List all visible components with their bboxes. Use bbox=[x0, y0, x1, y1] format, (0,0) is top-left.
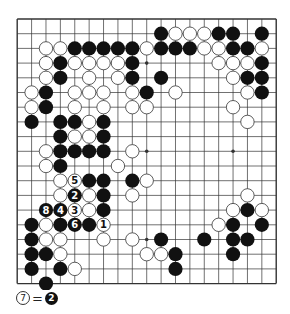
white-stone bbox=[140, 248, 153, 261]
black-stone bbox=[226, 27, 240, 41]
go-board-grid: 1234568 bbox=[0, 0, 290, 290]
move-number-label: 3 bbox=[71, 205, 78, 216]
black-stone bbox=[24, 218, 38, 232]
move-number-label: 8 bbox=[42, 205, 49, 216]
white-stone bbox=[39, 233, 52, 246]
move-number-label: 4 bbox=[57, 205, 64, 216]
white-stone bbox=[39, 71, 52, 84]
white-stone bbox=[226, 56, 239, 69]
star-point bbox=[231, 150, 235, 154]
black-stone bbox=[240, 71, 254, 85]
white-stone bbox=[97, 86, 110, 99]
white-stone bbox=[140, 101, 153, 114]
black-stone bbox=[24, 232, 38, 246]
white-stone bbox=[54, 233, 67, 246]
white-stone bbox=[111, 71, 124, 84]
move-number-label: 1 bbox=[100, 219, 107, 230]
black-stone bbox=[168, 41, 182, 55]
white-stone bbox=[169, 27, 182, 40]
move-number-label: 6 bbox=[71, 219, 78, 230]
black-stone bbox=[53, 130, 67, 144]
white-stone bbox=[82, 130, 95, 143]
black-stone bbox=[125, 71, 139, 85]
white-stone bbox=[82, 203, 95, 216]
white-stone bbox=[39, 159, 52, 172]
white-stone bbox=[126, 233, 139, 246]
star-point bbox=[145, 150, 149, 154]
caption-black-move-marker: 2 bbox=[45, 292, 58, 305]
white-stone bbox=[255, 203, 268, 216]
white-stone bbox=[25, 86, 38, 99]
move-caption: 7 = 2 bbox=[16, 290, 58, 306]
white-stone bbox=[82, 115, 95, 128]
black-stone bbox=[168, 247, 182, 261]
white-stone bbox=[97, 56, 110, 69]
star-point bbox=[145, 61, 149, 65]
black-stone bbox=[53, 262, 67, 276]
white-stone bbox=[54, 42, 67, 55]
white-stone bbox=[212, 56, 225, 69]
black-stone bbox=[82, 41, 96, 55]
black-stone bbox=[53, 144, 67, 158]
black-stone bbox=[255, 71, 269, 85]
black-stone bbox=[39, 100, 53, 114]
black-stone bbox=[125, 56, 139, 70]
white-stone bbox=[54, 189, 67, 202]
black-stone bbox=[68, 41, 82, 55]
black-stone bbox=[24, 262, 38, 276]
black-stone bbox=[68, 144, 82, 158]
black-stone bbox=[125, 41, 139, 55]
black-stone bbox=[96, 188, 110, 202]
white-stone bbox=[154, 248, 167, 261]
black-stone bbox=[53, 159, 67, 173]
black-stone bbox=[255, 56, 269, 70]
white-stone bbox=[183, 27, 196, 40]
black-stone bbox=[255, 85, 269, 99]
white-stone bbox=[140, 174, 153, 187]
black-stone bbox=[96, 41, 110, 55]
caption-equals: = bbox=[32, 291, 43, 306]
black-stone bbox=[68, 115, 82, 129]
white-stone bbox=[140, 42, 153, 55]
white-stone bbox=[39, 56, 52, 69]
black-stone bbox=[96, 174, 110, 188]
white-stone bbox=[126, 189, 139, 202]
star-point bbox=[145, 238, 149, 242]
black-stone bbox=[255, 27, 269, 41]
black-stone bbox=[226, 41, 240, 55]
black-stone bbox=[39, 85, 53, 99]
white-stone bbox=[39, 42, 52, 55]
white-stone bbox=[39, 145, 52, 158]
black-stone bbox=[240, 41, 254, 55]
black-stone bbox=[96, 130, 110, 144]
white-stone bbox=[212, 42, 225, 55]
white-stone bbox=[226, 71, 239, 84]
black-stone bbox=[226, 232, 240, 246]
white-stone bbox=[241, 56, 254, 69]
move-number-label: 5 bbox=[71, 175, 78, 186]
black-stone bbox=[240, 232, 254, 246]
black-stone bbox=[255, 218, 269, 232]
black-stone bbox=[39, 277, 53, 291]
black-stone bbox=[111, 41, 125, 55]
go-board: 1234568 bbox=[0, 0, 290, 290]
white-stone bbox=[241, 115, 254, 128]
black-stone bbox=[82, 218, 96, 232]
black-stone bbox=[96, 203, 110, 217]
white-stone bbox=[198, 27, 211, 40]
white-stone bbox=[25, 101, 38, 114]
black-stone bbox=[168, 262, 182, 276]
white-stone bbox=[241, 86, 254, 99]
white-stone bbox=[68, 56, 81, 69]
white-stone bbox=[241, 189, 254, 202]
black-stone bbox=[53, 218, 67, 232]
white-stone bbox=[68, 101, 81, 114]
black-stone bbox=[39, 247, 53, 261]
black-stone bbox=[226, 218, 240, 232]
black-stone bbox=[197, 232, 211, 246]
black-stone bbox=[53, 71, 67, 85]
white-stone bbox=[226, 101, 239, 114]
white-stone bbox=[97, 233, 110, 246]
black-stone bbox=[82, 144, 96, 158]
white-stone bbox=[111, 159, 124, 172]
